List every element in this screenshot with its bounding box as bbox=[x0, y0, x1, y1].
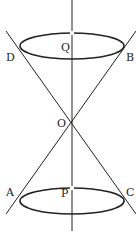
label-b: B bbox=[126, 51, 134, 64]
label-p: P bbox=[61, 187, 69, 200]
double-cone-diagram: D Q B O A P C bbox=[0, 0, 136, 231]
label-o: O bbox=[57, 117, 66, 130]
label-q: Q bbox=[61, 41, 70, 54]
label-c: C bbox=[126, 186, 134, 199]
label-d: D bbox=[6, 51, 15, 64]
label-a: A bbox=[5, 186, 15, 199]
